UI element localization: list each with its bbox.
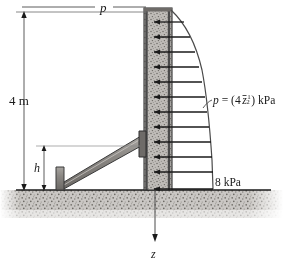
strut-wall-bracket — [139, 131, 146, 157]
top-pressure-leader: p — [22, 0, 146, 15]
pressure-exp-denominator: 2 — [246, 98, 250, 106]
strut-base-post — [56, 167, 64, 190]
strut-height-label: h — [34, 161, 40, 175]
diagram-canvas: 4 m h p p= (4z12) kPa 8 kPa — [0, 0, 283, 267]
height-dimension-label: 4 m — [9, 93, 29, 108]
pressure-function-eq: = (4 — [222, 94, 241, 107]
pressure-function-callout: p= (4z12) kPa — [203, 93, 275, 108]
top-pressure-symbol: p — [99, 0, 107, 15]
ground-soil — [0, 190, 283, 220]
retaining-wall — [144, 8, 172, 190]
base-pressure-label: 8 kPa — [215, 176, 241, 188]
pressure-function-tail: ) kPa — [251, 94, 275, 107]
pressure-loading-diagram: 4 m h p p= (4z12) kPa 8 kPa — [0, 0, 283, 267]
inclined-strut — [56, 131, 146, 190]
height-dimension-4m: 4 m — [9, 11, 148, 191]
depth-axis-label: z — [150, 247, 156, 261]
pressure-function-p: p — [212, 94, 219, 107]
z-axis-arrowhead — [152, 234, 158, 242]
